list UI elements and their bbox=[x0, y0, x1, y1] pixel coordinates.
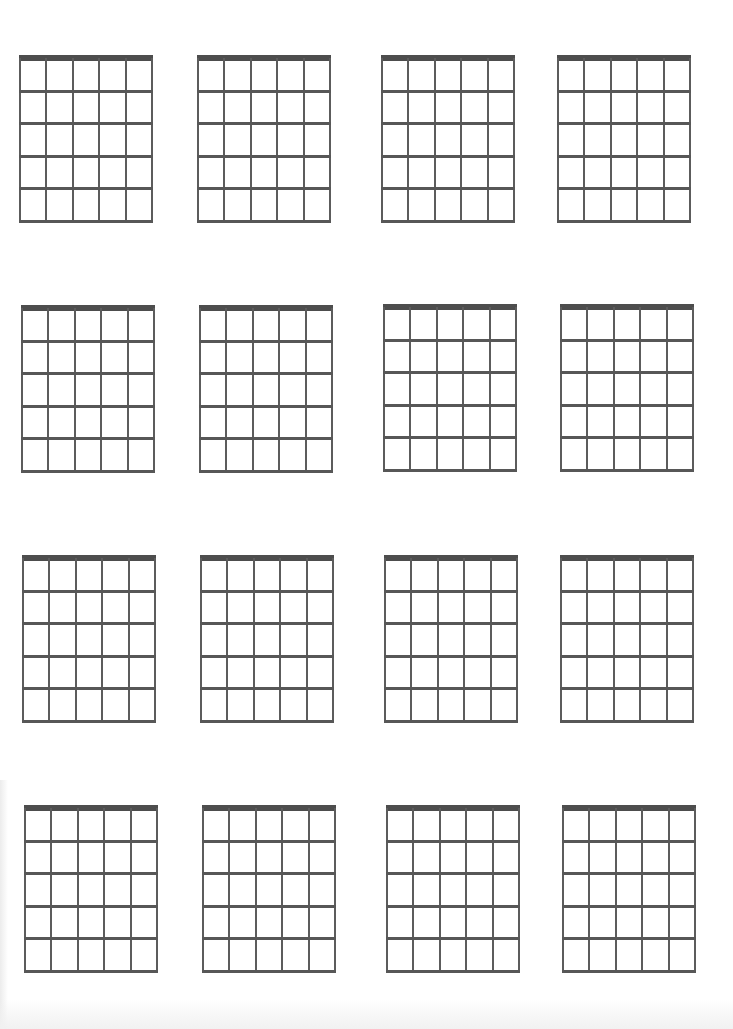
string-line bbox=[250, 58, 252, 223]
string-line bbox=[694, 808, 696, 973]
grid-bottom-line bbox=[560, 469, 694, 472]
string-line bbox=[127, 308, 129, 473]
fret-line bbox=[381, 122, 515, 125]
string-line bbox=[463, 558, 465, 723]
string-line bbox=[226, 558, 228, 723]
string-line bbox=[197, 58, 199, 223]
string-line bbox=[24, 808, 26, 973]
fret-line bbox=[197, 155, 331, 158]
string-line bbox=[130, 808, 132, 973]
string-line bbox=[331, 308, 333, 473]
nut bbox=[24, 805, 158, 811]
grid-bottom-line bbox=[202, 970, 336, 973]
grid-bottom-line bbox=[384, 720, 518, 723]
string-line bbox=[305, 308, 307, 473]
string-line bbox=[518, 808, 520, 973]
grid-bottom-line bbox=[386, 970, 520, 973]
fret-line bbox=[24, 905, 158, 908]
grid-bottom-line bbox=[557, 220, 691, 223]
nut bbox=[384, 555, 518, 561]
chord-diagram-r3c3 bbox=[384, 555, 518, 723]
string-line bbox=[103, 808, 105, 973]
fret-line bbox=[199, 340, 333, 343]
fret-line bbox=[562, 872, 696, 875]
nut bbox=[557, 55, 691, 61]
fret-line bbox=[381, 90, 515, 93]
string-line bbox=[308, 808, 310, 973]
string-line bbox=[436, 307, 438, 472]
fret-line bbox=[24, 937, 158, 940]
string-line bbox=[48, 558, 50, 723]
fret-line bbox=[21, 340, 155, 343]
fret-line bbox=[384, 590, 518, 593]
fret-line bbox=[24, 840, 158, 843]
string-line bbox=[303, 58, 305, 223]
string-line bbox=[332, 558, 334, 723]
fret-line bbox=[19, 187, 153, 190]
fret-line bbox=[384, 622, 518, 625]
string-line bbox=[639, 558, 641, 723]
scan-bottom-shadow bbox=[0, 999, 733, 1029]
string-line bbox=[583, 58, 585, 223]
grid-bottom-line bbox=[381, 220, 515, 223]
fret-line bbox=[381, 187, 515, 190]
string-line bbox=[381, 58, 383, 223]
fret-line bbox=[386, 905, 520, 908]
fret-line bbox=[560, 436, 694, 439]
fret-line bbox=[197, 122, 331, 125]
chord-diagram-r2c3 bbox=[383, 304, 517, 472]
chord-diagram-r3c4 bbox=[560, 555, 694, 723]
string-line bbox=[200, 558, 202, 723]
nut bbox=[202, 805, 336, 811]
string-line bbox=[666, 558, 668, 723]
string-line bbox=[77, 808, 79, 973]
fret-line bbox=[557, 122, 691, 125]
string-line bbox=[615, 808, 617, 973]
fret-line bbox=[562, 840, 696, 843]
string-line bbox=[383, 307, 385, 472]
string-line bbox=[636, 58, 638, 223]
string-line bbox=[202, 808, 204, 973]
string-line bbox=[588, 808, 590, 973]
string-line bbox=[487, 58, 489, 223]
string-line bbox=[21, 308, 23, 473]
nut bbox=[22, 555, 156, 561]
fret-line bbox=[557, 155, 691, 158]
string-line bbox=[153, 308, 155, 473]
fret-line bbox=[557, 187, 691, 190]
string-line bbox=[281, 808, 283, 973]
fret-line bbox=[560, 590, 694, 593]
grid-bottom-line bbox=[22, 720, 156, 723]
fret-line bbox=[560, 404, 694, 407]
string-line bbox=[562, 808, 564, 973]
string-line bbox=[98, 58, 100, 223]
fret-line bbox=[19, 90, 153, 93]
string-line bbox=[125, 58, 127, 223]
string-line bbox=[154, 558, 156, 723]
nut bbox=[386, 805, 520, 811]
string-line bbox=[101, 558, 103, 723]
nut bbox=[560, 304, 694, 310]
string-line bbox=[516, 558, 518, 723]
string-line bbox=[465, 808, 467, 973]
fret-line bbox=[199, 372, 333, 375]
chord-diagram-r3c1 bbox=[22, 555, 156, 723]
grid-bottom-line bbox=[562, 970, 696, 973]
fret-line bbox=[200, 590, 334, 593]
nut bbox=[200, 555, 334, 561]
string-line bbox=[666, 307, 668, 472]
string-line bbox=[306, 558, 308, 723]
chord-diagram-r2c2 bbox=[199, 305, 333, 473]
string-line bbox=[613, 307, 615, 472]
string-line bbox=[22, 558, 24, 723]
fret-line bbox=[19, 122, 153, 125]
grid-bottom-line bbox=[19, 220, 153, 223]
fret-line bbox=[199, 405, 333, 408]
string-line bbox=[515, 307, 517, 472]
nut bbox=[562, 805, 696, 811]
nut bbox=[21, 305, 155, 311]
chord-diagram-r2c4 bbox=[560, 304, 694, 472]
fret-line bbox=[560, 339, 694, 342]
string-line bbox=[255, 808, 257, 973]
string-line bbox=[489, 307, 491, 472]
